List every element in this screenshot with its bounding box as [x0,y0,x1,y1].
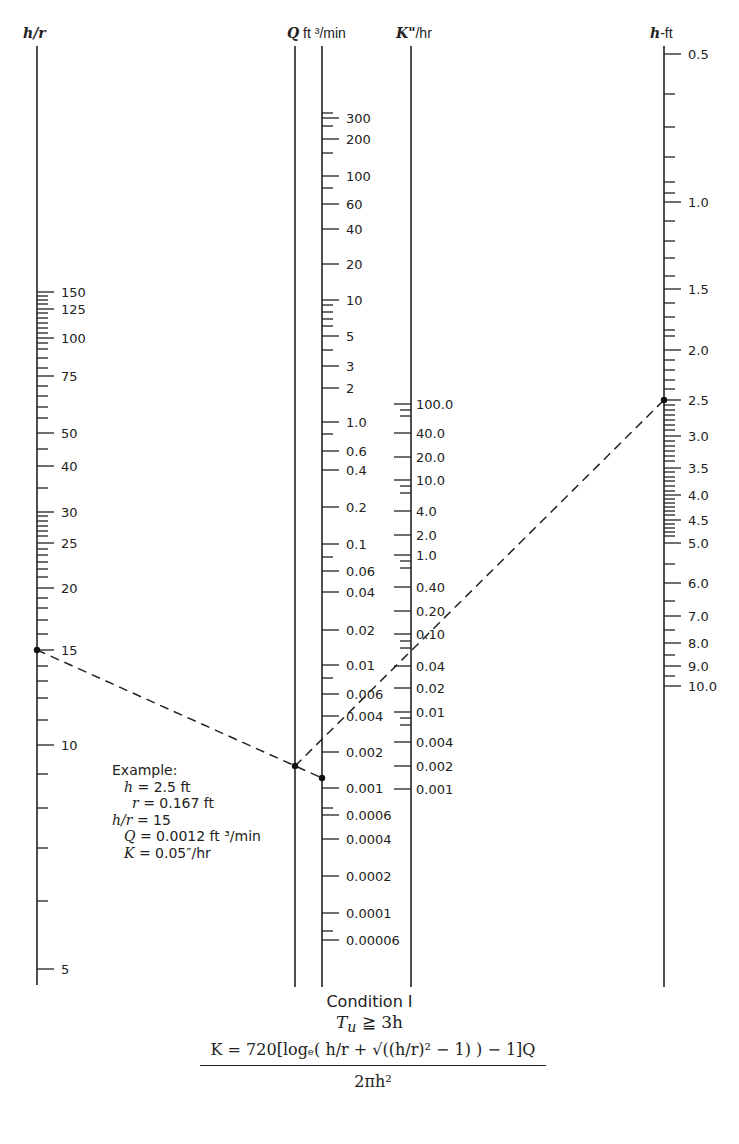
hr-tick-label: 5 [61,962,69,977]
hft-tick-label: 0.5 [688,47,709,62]
q-tick-label: 0.01 [346,658,375,673]
hr-tick-label: 40 [61,459,78,474]
example-box: Example: h = 2.5 ftr = 0.167 fth/r = 15Q… [112,762,261,861]
example-rows: h = 2.5 ftr = 0.167 fth/r = 15Q = 0.0012… [112,779,261,862]
condition-label: Condition I [0,992,739,1011]
q-axis-title: Q ft ³/min [287,25,346,41]
hr-tick-label: 20 [61,581,78,596]
hr-tick-label: 25 [61,536,78,551]
hr-tick-label: 50 [61,426,78,441]
example-var: Q [124,828,135,844]
q-tick-label: 0.4 [346,463,367,478]
formula: K = 720[logₑ( h/r + √((h/r)² − 1) ) − 1]… [200,1040,546,1091]
hft-tick-label: 9.0 [688,659,709,674]
k-axis-title: K"/hr [395,25,432,41]
hft-tick-label: 4.0 [688,488,709,503]
k-tick-label: 0.002 [416,759,453,774]
k-tick-label: 2.0 [416,528,437,543]
q-tick-label: 0.0006 [346,808,392,823]
formula-numerator: K = 720[logₑ( h/r + √((h/r)² − 1) ) − 1]… [200,1040,546,1066]
q-tick-label: 0.06 [346,564,375,579]
hft-tick-label: 4.5 [688,513,709,528]
example-var: r [132,795,139,811]
q-tick-label: 1.0 [346,415,367,430]
hft-tick-label: 3.0 [688,429,709,444]
hr-tick-label: 150 [61,285,86,300]
hft-tick-label: 3.5 [688,461,709,476]
hft-tick-label: 1.5 [688,282,709,297]
q-tick-label: 200 [346,132,371,147]
nomograph: h/r15012510075504030252015105Q ft ³/min3… [0,0,739,1144]
example-value: = 2.5 ft [133,779,191,795]
example-point [34,647,40,653]
k-tick-label: 0.10 [416,627,445,642]
q-tick-label: 10 [346,293,363,308]
example-point [319,775,325,781]
q-tick-label: 100 [346,169,371,184]
k-tick-label: 0.01 [416,705,445,720]
q-tick-label: 0.002 [346,745,383,760]
k-tick-label: 40.0 [416,426,445,441]
k-tick-label: 20.0 [416,450,445,465]
hft-axis-title: h-ft [650,25,673,41]
example-point [292,763,298,769]
example-var: h/r [112,812,132,828]
k-tick-label: 0.004 [416,735,453,750]
hr-tick-label: 100 [61,331,86,346]
q-tick-label: 0.004 [346,709,383,724]
q-tick-label: 0.2 [346,500,367,515]
hr-tick-label: 10 [61,738,78,753]
hft-tick-label: 6.0 [688,576,709,591]
hft-tick-label: 10.0 [688,679,717,694]
hr-tick-label: 30 [61,505,78,520]
k-tick-label: 0.20 [416,604,445,619]
k-tick-label: 0.02 [416,681,445,696]
k-tick-label: 0.04 [416,659,445,674]
q-tick-label: 60 [346,197,363,212]
example-point [661,397,667,403]
q-tick-label: 0.6 [346,444,367,459]
k-tick-label: 0.001 [416,782,453,797]
q-tick-label: 0.00006 [346,933,400,948]
k-tick-label: 10.0 [416,473,445,488]
inequality-rest: ≧ 3h [356,1012,403,1032]
q-tick-label: 0.0002 [346,869,392,884]
hr-tick-label: 75 [61,369,78,384]
hft-tick-label: 8.0 [688,636,709,651]
q-tick-label: 0.02 [346,623,375,638]
example-row: K = 0.05″/hr [112,845,261,862]
condition-inequality: Tu ≧ 3h [0,1012,739,1035]
example-dashed-line-hr-to-q [37,650,322,778]
formula-denominator: 2πh² [200,1066,546,1091]
hft-tick-label: 1.0 [688,195,709,210]
q-tick-label: 0.001 [346,781,383,796]
example-heading: Example: [112,762,261,779]
hr-axis-title: h/r [23,25,47,41]
example-row: Q = 0.0012 ft ³/min [112,828,261,845]
example-value: = 0.0012 ft ³/min [135,828,260,844]
q-tick-label: 0.04 [346,585,375,600]
q-tick-label: 300 [346,111,371,126]
inequality-var: T [336,1012,347,1032]
example-row: h = 2.5 ft [112,779,261,796]
q-tick-label: 40 [346,222,363,237]
example-row: h/r = 15 [112,812,261,829]
q-tick-label: 5 [346,329,354,344]
hft-tick-label: 2.5 [688,393,709,408]
example-row: r = 0.167 ft [112,795,261,812]
q-tick-label: 20 [346,257,363,272]
example-value: = 0.05″/hr [134,845,210,861]
q-tick-label: 0.0004 [346,832,392,847]
k-tick-label: 4.0 [416,504,437,519]
hr-tick-label: 15 [61,643,78,658]
hft-tick-label: 7.0 [688,609,709,624]
q-tick-label: 2 [346,381,354,396]
example-value: = 15 [132,812,170,828]
hr-tick-label: 125 [61,302,86,317]
q-tick-label: 0.1 [346,537,367,552]
q-tick-label: 0.0001 [346,906,392,921]
k-tick-label: 100.0 [416,397,453,412]
q-tick-label: 3 [346,359,354,374]
hft-tick-label: 2.0 [688,343,709,358]
example-var: h [124,779,133,795]
